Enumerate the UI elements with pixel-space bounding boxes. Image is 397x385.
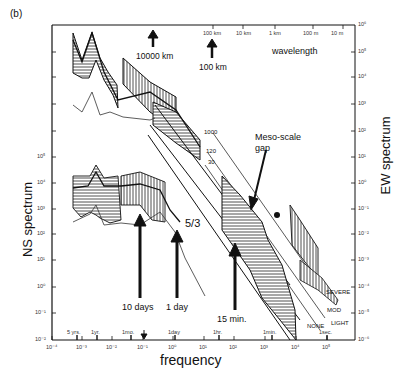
y-right-tick-label: 10⁻⁶ — [358, 336, 369, 342]
annotation-1-day: 1 day — [166, 302, 188, 312]
annotation-10000km: 10000 km — [136, 51, 173, 61]
y-right-tick-label: 10³ — [358, 100, 366, 106]
top-tick-100m: 100 m — [303, 30, 318, 36]
y-right-tick-label: 10² — [358, 127, 366, 133]
y-right-tick-label: 10⁶ — [358, 21, 366, 27]
y-right-tick-label: 10⁵ — [358, 48, 366, 54]
x-tick-label: 10⁻¹ — [137, 344, 148, 350]
y-axis-title-left: NS spectrum — [20, 175, 35, 265]
annotation-15-min: 15 min. — [217, 314, 247, 324]
period-1min: 1min. — [263, 329, 276, 335]
label-severe: SEVERE — [326, 289, 350, 295]
y-right-tick-label: 10⁻⁵ — [358, 309, 369, 315]
period-1mo: 1mo. — [122, 329, 134, 335]
x-tick-label: 10⁵ — [322, 344, 330, 350]
y-right-tick-label: 10⁴ — [358, 73, 366, 79]
annotation-100km: 100 km — [199, 62, 227, 72]
x-axis-title: frequency — [160, 352, 221, 368]
y-right-tick-label: 10⁻³ — [358, 256, 369, 262]
line-label-30: 30 — [208, 159, 215, 165]
top-tick-10m: 10 m — [331, 30, 343, 36]
x-tick-label: 10⁴ — [291, 344, 299, 350]
x-tick-label: 10¹ — [199, 344, 207, 350]
y-left-tick-label: 10³ — [37, 205, 45, 211]
label-light: LIGHT — [331, 320, 349, 326]
x-tick-label: 10⁻⁴ — [46, 344, 57, 350]
y-right-tick-label: 10⁻⁴ — [358, 283, 369, 289]
panel-label: (b) — [10, 8, 22, 19]
y-left-tick-label: 10⁵ — [37, 153, 45, 159]
period-5yrs: 5 yrs. — [67, 329, 80, 335]
top-tick-1km: 1 km — [269, 30, 281, 36]
spectrum-chart — [0, 0, 397, 385]
y-left-tick-label: 10² — [37, 230, 45, 236]
y-left-tick-label: 10¹ — [37, 256, 45, 262]
y-axis-title-right: EW spectrum — [378, 111, 393, 201]
y-right-tick-label: 10¹ — [358, 153, 366, 159]
period-1sec: 1sec. — [319, 329, 332, 335]
y-left-tick-label: 10⁻¹ — [35, 309, 46, 315]
y-right-tick-label: 10⁰ — [358, 179, 366, 185]
annotation-meso-scale: Meso-scale — [255, 132, 301, 142]
period-1hr: 1hr. — [213, 329, 222, 335]
annotation-10-days: 10 days — [122, 302, 154, 312]
line-label-1000: 1000 — [204, 129, 217, 135]
y-left-tick-label: 10⁴ — [37, 179, 45, 185]
top-tick-100km: 100 km — [203, 30, 221, 36]
top-tick-10km: 10 km — [236, 30, 251, 36]
slope-label: 5/3 — [185, 217, 200, 229]
x-tick-label: 10³ — [260, 344, 268, 350]
period-1day: 1day — [168, 329, 180, 335]
x-tick-label: 10⁻² — [106, 344, 117, 350]
x-tick-label: 10⁰ — [168, 344, 176, 350]
line-label-120: 120 — [206, 148, 216, 154]
y-left-tick-label: 10⁰ — [37, 283, 45, 289]
x-tick-label: 10⁻³ — [76, 344, 87, 350]
y-left-tick-label: 10⁻² — [35, 336, 46, 342]
x-tick-label: 10² — [229, 344, 237, 350]
wavelength-label: wavelength — [272, 46, 318, 56]
y-right-tick-label: 10⁻¹ — [358, 205, 369, 211]
y-right-tick-label: 10⁻² — [358, 230, 369, 236]
annotation-gap: gap — [255, 143, 270, 153]
label-mod: MOD — [327, 307, 341, 313]
period-1yr: 1yr. — [91, 329, 100, 335]
